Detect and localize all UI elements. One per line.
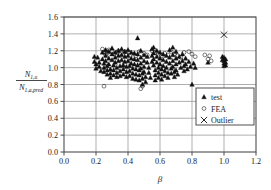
y-tick-label: 0.6 (48, 97, 58, 106)
legend: testFEAOutlier (196, 88, 254, 125)
y-tick-label: 0.0 (48, 148, 58, 157)
x-tick-label: 0.2 (91, 157, 101, 166)
x-tick-label: 1.2 (251, 157, 261, 166)
y-tick-label: 0.4 (48, 114, 58, 123)
y-tick-label: 1.6 (48, 13, 58, 22)
y-tick-label: 1.4 (48, 30, 58, 39)
legend-label-test: test (211, 93, 223, 102)
x-tick-label: 0.8 (187, 157, 197, 166)
y-tick-label: 0.2 (48, 131, 58, 140)
y-tick-label: 0.8 (48, 81, 58, 90)
x-tick-label: 0.6 (155, 157, 165, 166)
legend-label-outlier: Outlier (211, 116, 234, 125)
x-tick-label: 1.0 (219, 157, 229, 166)
y-axis-tick-labels: 0.00.20.40.60.81.01.21.41.6 (48, 13, 58, 157)
y-tick-label: 1.0 (48, 64, 58, 73)
y-tick-label: 1.2 (48, 47, 58, 56)
scatter-chart-figure: 0.00.20.40.60.81.01.2 0.00.20.40.60.81.0… (0, 0, 271, 190)
x-tick-label: 0.4 (123, 157, 133, 166)
x-tick-label: 0.0 (59, 157, 69, 166)
chart-canvas: 0.00.20.40.60.81.01.2 0.00.20.40.60.81.0… (0, 0, 271, 190)
legend-label-fea: FEA (211, 105, 226, 114)
x-axis-title: β (157, 174, 163, 184)
